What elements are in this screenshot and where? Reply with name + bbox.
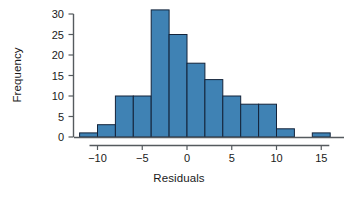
y-axis-ticks: 051015202530 [52, 8, 74, 143]
histogram-bar [98, 125, 116, 137]
x-tick-label: 15 [315, 152, 327, 164]
x-axis-title: Residuals [0, 172, 358, 184]
y-tick-label: 30 [52, 8, 64, 20]
x-tick-label: 0 [184, 152, 190, 164]
x-tick-label: 10 [270, 152, 282, 164]
histogram-bar [277, 129, 295, 137]
x-axis-title-text: Residuals [153, 172, 204, 184]
histogram-bar [259, 104, 277, 137]
histogram-bar [205, 80, 223, 137]
y-tick-label: 20 [52, 49, 64, 61]
histogram-bar [80, 133, 98, 137]
histogram-bar [133, 96, 151, 137]
y-tick-label: 10 [52, 90, 64, 102]
y-tick-label: 15 [52, 70, 64, 82]
y-tick-label: 0 [58, 131, 64, 143]
x-tick-label: 5 [229, 152, 235, 164]
bars-group [80, 10, 331, 137]
histogram-bar [187, 63, 205, 137]
x-axis-ticks: −10−5051015 [88, 146, 327, 164]
histogram-bar [169, 35, 187, 138]
histogram-bar [151, 10, 169, 137]
x-tick-label: −10 [88, 152, 107, 164]
histogram-bar [241, 104, 259, 137]
histogram-bar [115, 96, 133, 137]
x-tick-label: −5 [136, 152, 149, 164]
histogram-bar [223, 96, 241, 137]
histogram-figure: Frequency −10−5051015 051015202530 Resid… [0, 0, 358, 206]
histogram-bar [312, 133, 330, 137]
y-tick-label: 5 [58, 111, 64, 123]
y-tick-label: 25 [52, 29, 64, 41]
